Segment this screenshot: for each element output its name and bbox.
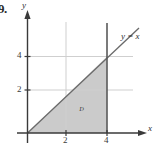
x-axis-label: x [148, 123, 152, 133]
region-label-d: ᴰ [79, 105, 84, 116]
line-equation-label: y = x [121, 31, 140, 41]
figure-container: 9. y x 4 2 2 4 ᴰ y = x [0, 0, 159, 156]
y-axis-arrow-icon [24, 10, 30, 19]
x-tick-label-2: 2 [63, 135, 68, 145]
coordinate-plot [0, 0, 159, 156]
y-axis-label: y [22, 0, 26, 10]
y-tick-label-4: 4 [17, 50, 22, 60]
x-tick-label-4: 4 [104, 135, 109, 145]
y-tick-label-2: 2 [17, 84, 22, 94]
x-axis-arrow-icon [138, 130, 147, 136]
